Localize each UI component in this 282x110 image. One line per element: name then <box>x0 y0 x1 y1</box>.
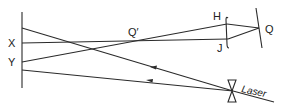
ray-h-to-q <box>227 24 259 28</box>
ray-lower-to-laser <box>22 70 233 91</box>
label-x: X <box>8 37 16 49</box>
lens-hj <box>226 17 229 48</box>
label-q: Q <box>265 23 274 35</box>
label-q-prime: Q′ <box>128 26 139 38</box>
label-h: H <box>213 10 221 22</box>
label-y: Y <box>8 56 16 68</box>
label-j: J <box>217 42 223 54</box>
ray-diagram: X Y Q′ H J Q Laser <box>0 0 282 110</box>
ray-y-to-h <box>22 24 227 62</box>
ray-j-to-q <box>228 28 259 39</box>
